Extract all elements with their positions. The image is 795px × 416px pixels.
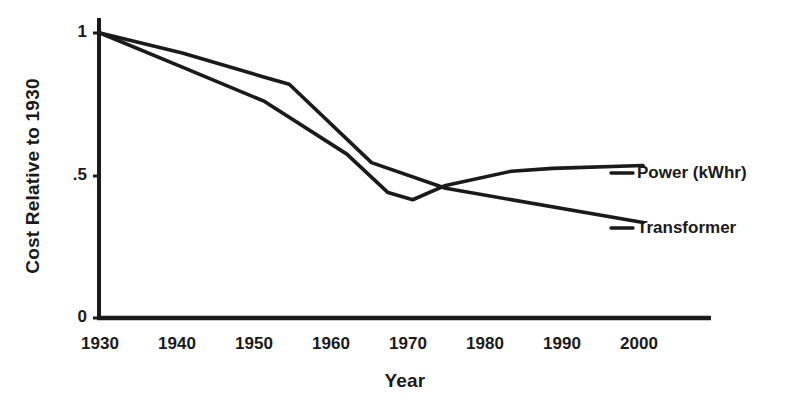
series-label-transformer: Transformer [637, 218, 736, 238]
x-axis-title: Year [340, 370, 470, 392]
y-tick-label-half: .5 [47, 165, 87, 185]
x-tick-label-1930: 1930 [60, 334, 140, 354]
x-tick-label-1990: 1990 [522, 334, 602, 354]
y-tick-label-0: 0 [47, 307, 87, 327]
chart-container: Cost Relative to 1930 Year 1 .5 0 1930 1… [0, 0, 795, 416]
x-tick-label-2000: 2000 [599, 334, 679, 354]
x-tick-label-1980: 1980 [445, 334, 525, 354]
x-tick-label-1940: 1940 [137, 334, 217, 354]
x-tick-label-1960: 1960 [291, 334, 371, 354]
y-tick-label-1: 1 [47, 22, 87, 42]
x-tick-label-1970: 1970 [368, 334, 448, 354]
y-axis-title: Cost Relative to 1930 [22, 26, 44, 326]
x-tick-label-1950: 1950 [214, 334, 294, 354]
series-line-transformer [100, 33, 643, 223]
series-label-power: Power (kWhr) [637, 163, 747, 183]
series-line-power [100, 33, 643, 200]
